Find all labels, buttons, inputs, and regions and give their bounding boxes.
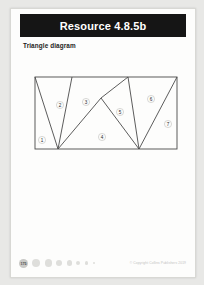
- triangle-diagram-container: 1234567: [20, 61, 187, 153]
- region-7-label: 7: [167, 122, 170, 127]
- region-4-label: 4: [101, 135, 104, 140]
- resource-header-bar: Resource 4.8.5b: [20, 14, 186, 37]
- footer-dot: [93, 262, 95, 264]
- diagram-outer-rect: [35, 77, 177, 149]
- region-2-label: 2: [59, 103, 62, 108]
- footer-dot: [85, 261, 88, 264]
- page-footer: 175 © Copyright Collins Publishers 2019: [11, 257, 195, 271]
- region-6-label: 6: [150, 97, 153, 102]
- worksheet-page: Resource 4.8.5b Triangle diagram 1234567…: [10, 8, 196, 278]
- footer-dot: [67, 260, 72, 265]
- footer-dot: [76, 261, 80, 265]
- page-title: Resource 4.8.5b: [60, 20, 147, 32]
- diagram-subtitle: Triangle diagram: [23, 42, 76, 49]
- footer-dot: [45, 259, 52, 266]
- seg-bb-tr: [139, 77, 177, 149]
- footer-dot: [56, 260, 62, 266]
- seg-ba-interior: [58, 98, 101, 149]
- region-3-label: 3: [85, 100, 88, 105]
- seg-interior-tb: [101, 77, 128, 98]
- page-number-badge: 175: [19, 259, 28, 268]
- seg-interior-bb: [101, 98, 139, 149]
- seg-tb-bb: [128, 77, 139, 149]
- copyright-text: © Copyright Collins Publishers 2019: [130, 261, 186, 265]
- footer-dot-row: [32, 259, 95, 267]
- triangle-diagram-svg: 1234567: [20, 61, 187, 153]
- region-1-label: 1: [41, 138, 44, 143]
- seg-tl-ba: [35, 77, 58, 149]
- region-5-label: 5: [119, 110, 122, 115]
- seg-ta-ba: [58, 77, 72, 149]
- footer-dot: [32, 259, 40, 267]
